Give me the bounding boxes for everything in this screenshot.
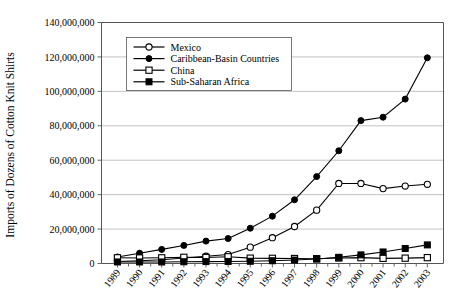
data-point: [247, 225, 253, 231]
data-point: [159, 259, 165, 265]
data-point: [380, 186, 386, 192]
x-tick-label: 1990: [124, 267, 145, 290]
data-point: [269, 258, 275, 264]
legend-marker: [146, 56, 152, 62]
x-tick-label: 2001: [367, 267, 388, 290]
data-point: [314, 256, 320, 262]
y-tick-label: 60,000,000: [50, 155, 95, 166]
line-chart: 020,000,00040,000,00060,000,00080,000,00…: [0, 0, 457, 308]
data-point: [402, 183, 408, 189]
data-point: [380, 114, 386, 120]
chart-legend: MexicoCaribbean-Basin CountriesChinaSub-…: [127, 38, 292, 91]
x-tick-label: 1992: [168, 267, 189, 290]
data-point: [424, 242, 430, 248]
y-tick-labels-group: 020,000,00040,000,00060,000,00080,000,00…: [45, 17, 95, 269]
x-tick-label: 1997: [279, 267, 300, 290]
y-tick-label: 100,000,000: [45, 86, 95, 97]
data-point: [402, 246, 408, 252]
data-point: [402, 96, 408, 102]
data-point: [114, 259, 120, 265]
legend-label: Sub-Saharan Africa: [171, 76, 250, 87]
data-point: [291, 223, 297, 229]
chart-figure: 020,000,00040,000,00060,000,00080,000,00…: [0, 0, 457, 308]
y-tick-marks-group: [98, 23, 102, 264]
data-point: [358, 180, 364, 186]
data-point: [336, 254, 342, 260]
data-point: [225, 258, 231, 264]
data-point: [380, 255, 386, 261]
x-tick-label: 1995: [234, 267, 255, 290]
legend-label: Caribbean-Basin Countries: [171, 53, 280, 64]
data-point: [358, 118, 364, 124]
data-point: [314, 207, 320, 213]
y-axis-title: Imports of Dozens of Cotton Knit Shirts: [4, 52, 17, 238]
legend-marker: [146, 44, 152, 50]
legend-marker: [146, 79, 152, 85]
data-point: [247, 258, 253, 264]
y-tick-label: 0: [90, 258, 95, 269]
data-point: [380, 249, 386, 255]
data-point: [203, 259, 209, 265]
legend-label: Mexico: [171, 42, 202, 53]
data-point: [424, 181, 430, 187]
data-point: [292, 257, 298, 263]
legend-marker: [146, 67, 152, 73]
y-tick-label: 140,000,000: [45, 17, 95, 28]
data-point: [402, 255, 408, 261]
x-tick-labels-group: 1989199019911992199319941995199619971998…: [102, 267, 433, 290]
data-point: [269, 213, 275, 219]
data-point: [181, 242, 187, 248]
x-tick-label: 1996: [256, 267, 277, 290]
x-tick-label: 1991: [146, 267, 167, 290]
data-point: [314, 174, 320, 180]
data-point: [247, 244, 253, 250]
x-tick-label: 2000: [345, 267, 366, 290]
data-point: [137, 259, 143, 265]
x-tick-label: 1998: [301, 267, 322, 290]
x-tick-label: 1993: [190, 267, 211, 290]
x-tick-label: 2003: [411, 267, 432, 290]
x-tick-label: 1989: [102, 267, 123, 290]
y-tick-label: 40,000,000: [50, 189, 95, 200]
data-point: [203, 238, 209, 244]
data-point: [424, 255, 430, 261]
y-tick-label: 20,000,000: [50, 224, 95, 235]
data-point: [269, 235, 275, 241]
data-point: [358, 252, 364, 258]
x-tick-label: 2002: [389, 267, 410, 290]
x-tick-label: 1999: [323, 267, 344, 290]
data-point: [292, 197, 298, 203]
y-tick-label: 120,000,000: [45, 52, 95, 63]
data-point: [181, 259, 187, 265]
legend-label: China: [171, 65, 195, 76]
data-point: [336, 180, 342, 186]
data-point: [159, 246, 165, 252]
x-tick-label: 1994: [212, 267, 233, 290]
y-tick-label: 80,000,000: [50, 120, 95, 131]
data-point: [336, 148, 342, 154]
data-point: [424, 55, 430, 61]
data-point: [225, 236, 231, 242]
